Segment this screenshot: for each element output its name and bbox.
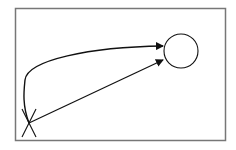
target-node-circle (164, 34, 198, 68)
curved-arrow-edge (24, 46, 163, 123)
start-x-marker-icon (22, 109, 36, 137)
diagram-canvas (0, 0, 236, 150)
straight-arrow-edge (29, 60, 163, 123)
diagram-frame (16, 9, 226, 141)
